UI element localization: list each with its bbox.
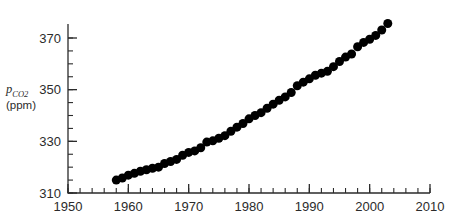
x-axis-tick-labels: 1950196019701980199020002010 <box>54 199 445 214</box>
data-point <box>287 88 296 97</box>
x-tick-label: 1960 <box>114 199 143 214</box>
axis-spine <box>68 24 430 193</box>
co2-concentration-chart: pCO2 (ppm) 310330350370 1950196019701980… <box>0 0 452 224</box>
x-tick-label: 1990 <box>295 199 324 214</box>
plot-area: 310330350370 195019601970198019902000201… <box>0 0 452 224</box>
x-tick-label: 1950 <box>54 199 83 214</box>
x-axis-major-ticks <box>68 184 430 193</box>
y-axis-tick-labels: 310330350370 <box>39 31 61 201</box>
x-tick-label: 2000 <box>355 199 384 214</box>
y-tick-label: 330 <box>39 134 61 149</box>
y-tick-label: 350 <box>39 82 61 97</box>
data-point <box>347 50 356 59</box>
x-tick-label: 2010 <box>416 199 445 214</box>
x-tick-label: 1970 <box>174 199 203 214</box>
y-tick-label: 370 <box>39 31 61 46</box>
data-series-co2 <box>112 19 393 185</box>
data-point <box>383 19 392 28</box>
y-axis-minor-ticks <box>68 38 73 193</box>
x-tick-label: 1980 <box>235 199 264 214</box>
